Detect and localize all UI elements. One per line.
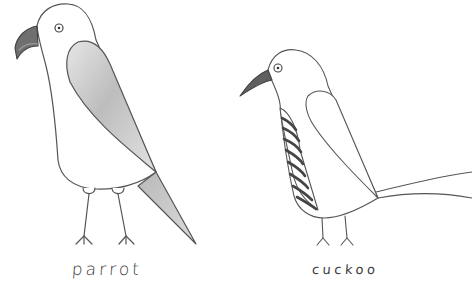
cuckoo-foot-right	[341, 238, 353, 245]
parrot-leg-right	[118, 194, 126, 236]
cuckoo-drawing	[240, 50, 472, 245]
cuckoo-label: cuckoo	[311, 262, 379, 277]
cuckoo-leg-right	[345, 216, 347, 238]
parrot-drawing	[15, 4, 196, 244]
parrot-leg-left	[84, 194, 89, 236]
cuckoo-foot-left	[317, 238, 329, 245]
cuckoo-beak	[240, 70, 272, 96]
parrot-tail	[138, 172, 196, 244]
cuckoo-tail	[376, 172, 472, 198]
bird-illustration: parrot cuckoo	[0, 0, 472, 292]
parrot-label: parrot	[71, 259, 142, 279]
parrot-beak	[15, 26, 38, 59]
cuckoo-leg-left	[322, 218, 323, 238]
